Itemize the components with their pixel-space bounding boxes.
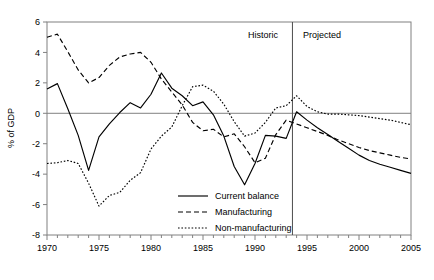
- y-tick-label: -6: [32, 200, 40, 210]
- y-axis-ticks: 6420-2-4-6-8: [32, 17, 47, 240]
- legend-label-1: Manufacturing: [215, 207, 272, 217]
- y-tick-label: 6: [35, 17, 40, 27]
- x-tick-label: 2000: [349, 243, 369, 253]
- y-tick-label: -8: [32, 230, 40, 240]
- y-tick-label: 4: [35, 48, 40, 58]
- legend-label-0: Current balance: [215, 191, 279, 201]
- line-chart: 6420-2-4-6-8 197019751980198519901995200…: [0, 0, 434, 280]
- x-tick-label: 2005: [401, 243, 421, 253]
- historic-label: Historic: [248, 30, 279, 40]
- x-tick-label: 1995: [297, 243, 317, 253]
- y-tick-label: -2: [32, 139, 40, 149]
- x-axis-ticks: 19701975198019851990199520002005: [37, 235, 421, 253]
- y-axis-title: % of GDP: [6, 108, 16, 148]
- x-tick-label: 1970: [37, 243, 57, 253]
- legend-label-2: Non-manufacturing: [215, 223, 292, 233]
- projected-label: Projected: [303, 30, 341, 40]
- x-tick-label: 1980: [141, 243, 161, 253]
- x-tick-label: 1990: [245, 243, 265, 253]
- y-tick-label: -4: [32, 169, 40, 179]
- plot-background: [47, 22, 411, 235]
- chart-figure: 6420-2-4-6-8 197019751980198519901995200…: [0, 0, 434, 280]
- y-tick-label: 2: [35, 78, 40, 88]
- x-tick-label: 1985: [193, 243, 213, 253]
- x-tick-label: 1975: [89, 243, 109, 253]
- y-tick-label: 0: [35, 109, 40, 119]
